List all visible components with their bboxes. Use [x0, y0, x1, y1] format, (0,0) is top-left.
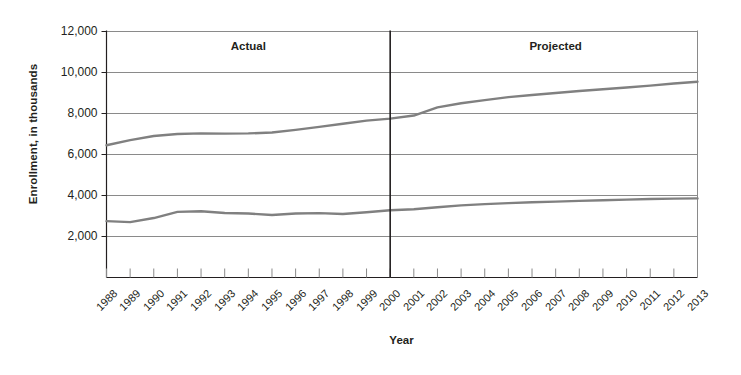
enrollment-line-chart: Enrollment, in thousands 2,0004,0006,000…: [0, 0, 741, 375]
plot-area: [0, 0, 741, 375]
actual-region-label: Actual: [188, 40, 308, 52]
series-lines: [107, 82, 698, 222]
x-axis-title: Year: [106, 334, 697, 346]
series-line-lower-series: [107, 198, 698, 222]
projected-region-label: Projected: [496, 40, 616, 52]
